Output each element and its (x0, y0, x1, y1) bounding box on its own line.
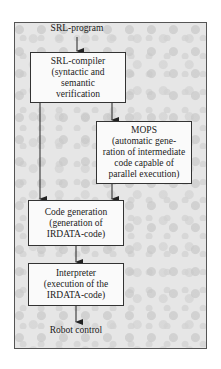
input-label: SRL-program (47, 23, 107, 33)
node-line: ration of intermediate (97, 147, 191, 158)
node-line: MOPS (97, 125, 191, 136)
node-line: (automatic gene- (97, 136, 191, 147)
node-line: Interpreter (29, 268, 123, 279)
node-line: semantic (31, 78, 125, 89)
output-label: Robot control (40, 325, 112, 335)
node-line: (generation of (29, 218, 123, 229)
node-line: code capable of (97, 158, 191, 169)
node-line: IRDATA-code) (29, 290, 123, 301)
node-line: parallel execution) (97, 169, 191, 180)
node-line: Code generation (29, 207, 123, 218)
node-line: (execution of the (29, 279, 123, 290)
node-line: SRL-compiler (31, 56, 125, 67)
node-mops: MOPS (automatic gene- ration of intermed… (96, 121, 192, 184)
node-code-generation: Code generation (generation of IRDATA-co… (28, 200, 124, 246)
node-line: IRDATA-code) (29, 229, 123, 240)
node-line: (syntactic and (31, 67, 125, 78)
node-srl-compiler: SRL-compiler (syntactic and semantic ver… (30, 52, 126, 103)
node-line: verification (31, 89, 125, 100)
node-interpreter: Interpreter (execution of the IRDATA-cod… (28, 263, 124, 306)
